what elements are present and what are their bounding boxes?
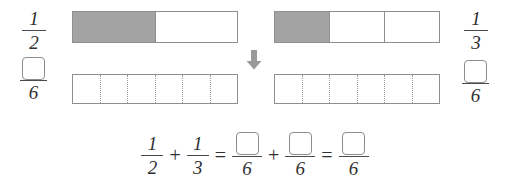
- bar-cell-shaded: [73, 12, 155, 42]
- bar-cell-empty: [384, 12, 439, 42]
- bar-cell-empty: [357, 75, 385, 103]
- right-bottom-bar-sixths: [274, 74, 440, 104]
- equation-answer-input-box-3[interactable]: [342, 132, 365, 155]
- equation-denominator: 3: [193, 156, 203, 177]
- equation-denominator: 6: [349, 157, 359, 178]
- equation-answer-input-box-1[interactable]: [236, 132, 259, 155]
- bar-cell-empty: [100, 75, 128, 103]
- operator-plus: +: [267, 145, 280, 165]
- equation-denominator: 6: [296, 157, 306, 178]
- bar-cell-empty: [412, 75, 440, 103]
- left-fraction-one-half: 1 2: [22, 9, 46, 52]
- bar-cell-empty: [329, 12, 384, 42]
- bar-cell-empty: [155, 12, 238, 42]
- bar-cell-empty: [302, 75, 330, 103]
- equation-fraction-one-third: 1 3: [187, 134, 209, 177]
- operator-equals: =: [214, 145, 227, 165]
- bar-cell-empty: [329, 75, 357, 103]
- right-fraction-numerator: 1: [469, 9, 483, 30]
- equation-answer-fraction-1: 6: [232, 132, 262, 178]
- bar-cell-empty: [182, 75, 210, 103]
- right-answer-fraction-sixths: 6: [462, 60, 489, 105]
- equation-answer-fraction-3: 6: [339, 132, 369, 178]
- left-answer-denominator: 6: [27, 81, 41, 102]
- bar-cell-empty: [384, 75, 412, 103]
- arrow-down-icon: [246, 50, 262, 70]
- bar-cell-empty: [155, 75, 183, 103]
- left-answer-fraction-sixths: 6: [20, 57, 47, 102]
- operator-plus: +: [168, 145, 181, 165]
- left-fraction-denominator: 2: [27, 31, 41, 52]
- left-bottom-bar-sixths: [72, 74, 238, 104]
- bar-cell-empty: [73, 75, 100, 103]
- equation-row: 1 2 + 1 3 = 6 + 6 = 6: [140, 126, 370, 184]
- equation-denominator: 2: [148, 156, 158, 177]
- equation-answer-fraction-2: 6: [285, 132, 315, 178]
- fraction-bar-model-diagram: 1 2 6: [0, 0, 507, 190]
- right-fraction-one-third: 1 3: [464, 9, 488, 52]
- left-answer-input-box[interactable]: [22, 57, 45, 80]
- operator-equals: =: [320, 145, 333, 165]
- right-answer-denominator: 6: [469, 84, 483, 105]
- equation-denominator: 6: [242, 157, 252, 178]
- bar-cell-empty: [275, 75, 302, 103]
- right-fraction-denominator: 3: [469, 31, 483, 52]
- bar-cell-empty: [127, 75, 155, 103]
- equation-numerator: 1: [148, 134, 158, 155]
- bar-cell-shaded: [275, 12, 329, 42]
- bar-cell-empty: [210, 75, 238, 103]
- equation-fraction-one-half: 1 2: [141, 134, 163, 177]
- left-fraction-numerator: 1: [27, 9, 41, 30]
- left-top-bar-halves: [72, 11, 238, 43]
- right-answer-input-box[interactable]: [464, 60, 487, 83]
- equation-answer-input-box-2[interactable]: [289, 132, 312, 155]
- equation-numerator: 1: [193, 134, 203, 155]
- right-top-bar-thirds: [274, 11, 440, 43]
